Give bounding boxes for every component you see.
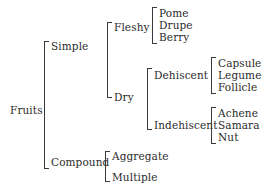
leaf-samara: Samara — [218, 119, 260, 131]
leaf-achene: Achene — [218, 107, 260, 119]
node-simple: Simple — [51, 41, 88, 53]
node-dehiscent: Dehiscent — [154, 70, 208, 82]
node-dry: Dry — [114, 92, 134, 104]
leaf-group-fleshy-types: Pome Drupe Berry — [159, 7, 193, 44]
node-multiple: Multiple — [112, 172, 158, 184]
leaf-group-dehiscent-types: Capsule Legume Follicle — [218, 57, 261, 94]
node-compound: Compound — [51, 157, 109, 169]
bracket-indehiscent-children — [211, 107, 216, 144]
bracket-simple-children — [107, 22, 112, 98]
node-fruits: Fruits — [10, 105, 43, 117]
node-indehiscent: Indehiscent — [154, 120, 218, 132]
leaf-follicle: Follicle — [218, 81, 261, 93]
bracket-dry-children — [147, 68, 152, 130]
bracket-compound-children — [105, 151, 110, 182]
bracket-fleshy-children — [152, 7, 157, 44]
fruits-classification-diagram: Fruits Simple Compound Fleshy Dry Aggreg… — [0, 0, 273, 196]
leaf-legume: Legume — [218, 69, 261, 81]
node-aggregate: Aggregate — [112, 151, 169, 163]
bracket-dehiscent-children — [211, 57, 216, 94]
leaf-group-indehiscent-types: Achene Samara Nut — [218, 107, 260, 144]
leaf-berry: Berry — [159, 31, 193, 43]
bracket-fruits-children — [44, 41, 49, 169]
node-fleshy: Fleshy — [114, 22, 150, 34]
leaf-pome: Pome — [159, 7, 193, 19]
leaf-nut: Nut — [218, 131, 260, 143]
leaf-capsule: Capsule — [218, 57, 261, 69]
leaf-drupe: Drupe — [159, 19, 193, 31]
